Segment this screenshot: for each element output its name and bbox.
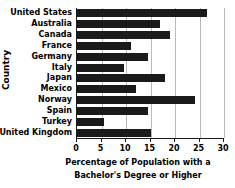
gridline xyxy=(224,8,225,138)
x-axis-title-line-2: Bachelor's Degree or Higher xyxy=(48,169,228,182)
bar xyxy=(77,64,124,72)
tick-mark xyxy=(101,139,102,142)
bar-slot xyxy=(77,105,224,116)
tick-label: 20 xyxy=(168,143,179,154)
category-label: United States xyxy=(10,8,74,19)
category-label: Canada xyxy=(10,30,74,41)
bar-slot xyxy=(77,127,224,138)
plot-area xyxy=(76,8,224,139)
tick-mark xyxy=(76,139,77,142)
bar-slot xyxy=(77,40,224,51)
bar xyxy=(77,53,148,61)
bar xyxy=(77,31,170,39)
tick-mark xyxy=(125,139,126,142)
bar-series xyxy=(77,8,224,138)
bar-slot xyxy=(77,62,224,73)
tick-mark xyxy=(199,139,200,142)
category-label: Japan xyxy=(10,73,74,84)
category-label: Mexico xyxy=(10,84,74,95)
bar-slot xyxy=(77,30,224,41)
bar-slot xyxy=(77,51,224,62)
bar xyxy=(77,42,131,50)
bar-slot xyxy=(77,8,224,19)
bar-slot xyxy=(77,19,224,30)
x-axis-title-line-1: Percentage of Population with a xyxy=(48,156,228,169)
bar xyxy=(77,118,104,126)
tick-mark xyxy=(174,139,175,142)
bar xyxy=(77,9,207,17)
x-axis-title: Percentage of Population with a Bachelor… xyxy=(48,156,228,182)
bar-slot xyxy=(77,95,224,106)
bar-chart: Country United StatesAustraliaCanadaFran… xyxy=(0,0,235,188)
bar xyxy=(77,74,165,82)
category-label: France xyxy=(10,40,74,51)
bar xyxy=(77,129,151,137)
category-label: Norway xyxy=(10,95,74,106)
category-label: Turkey xyxy=(10,116,74,127)
tick-label: 5 xyxy=(98,143,104,154)
category-label: Australia xyxy=(10,19,74,30)
tick-label: 0 xyxy=(73,143,79,154)
bar xyxy=(77,85,136,93)
category-axis-labels: United StatesAustraliaCanadaFranceGerman… xyxy=(10,8,74,138)
bar-slot xyxy=(77,84,224,95)
tick-label: 25 xyxy=(193,143,204,154)
tick-label: 30 xyxy=(217,143,228,154)
x-axis-tick-labels: 051015202530 xyxy=(76,143,223,154)
bar-slot xyxy=(77,73,224,84)
category-label: Germany xyxy=(10,51,74,62)
bar xyxy=(77,20,160,28)
category-label: United Kingdom xyxy=(10,127,74,138)
bar-slot xyxy=(77,116,224,127)
category-label: Spain xyxy=(10,105,74,116)
bar xyxy=(77,96,195,104)
tick-label: 10 xyxy=(119,143,130,154)
category-label: Italy xyxy=(10,62,74,73)
bar xyxy=(77,107,148,115)
tick-mark xyxy=(223,139,224,142)
tick-label: 15 xyxy=(144,143,155,154)
tick-mark xyxy=(150,139,151,142)
